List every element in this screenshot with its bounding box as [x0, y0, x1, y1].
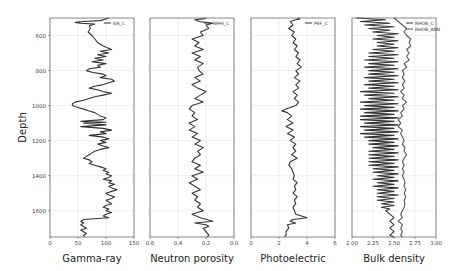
- y-tick-label: 1200: [32, 138, 46, 144]
- track-frame: [150, 18, 234, 237]
- legend-label: GR_C: [113, 21, 125, 27]
- x-tick-label: 0.6: [146, 240, 155, 246]
- x-tick-label: 50: [75, 240, 82, 246]
- x-tick-label: 0.2: [202, 240, 211, 246]
- y-tick-label: 600: [36, 33, 47, 39]
- x-tick-label: 150: [129, 240, 140, 246]
- x-tick-label: 0.0: [230, 240, 239, 246]
- x-axis-label: Neutron porosity: [150, 253, 234, 264]
- x-tick-label: 2.00: [346, 240, 359, 246]
- track-neutron-porosity: 0.60.40.20.0Neutron porosityNPHI_C: [146, 18, 239, 264]
- curve-rhob_c: [356, 18, 398, 237]
- x-tick-label: 0.4: [174, 240, 183, 246]
- x-tick-label: 3.00: [430, 240, 443, 246]
- y-tick-label: 1600: [32, 208, 46, 214]
- curve-pef_c: [282, 18, 307, 237]
- track-gamma-ray: 0501001506008001000120014001600Gamma-ray…: [32, 18, 140, 264]
- well-log-chart: Depth0501001506008001000120014001600Gamm…: [0, 0, 459, 271]
- y-axis-label: Depth: [17, 112, 28, 142]
- track-frame: [251, 18, 335, 237]
- x-axis-label: Photoelectric: [260, 253, 325, 264]
- y-tick-label: 800: [36, 68, 47, 74]
- x-tick-label: 6: [333, 240, 337, 246]
- x-tick-label: 2.75: [409, 240, 422, 246]
- x-axis-label: Gamma-ray: [62, 253, 121, 264]
- y-tick-label: 1400: [32, 173, 46, 179]
- track-bulk-density: 2.002.252.502.753.00Bulk densityRHOB_CRH…: [346, 18, 443, 264]
- legend-label: PEF_C: [314, 21, 328, 27]
- legend-label: NPHI_C: [213, 21, 229, 27]
- x-tick-label: 2: [277, 240, 281, 246]
- y-tick-label: 1000: [32, 103, 46, 109]
- x-tick-label: 4: [305, 240, 309, 246]
- curve-rhob_ann: [394, 18, 411, 237]
- x-tick-label: 2.50: [388, 240, 401, 246]
- curve-gr_c: [72, 18, 117, 237]
- x-axis-label: Bulk density: [363, 253, 425, 264]
- curve-nphi_c: [189, 18, 213, 237]
- legend-label: RHOB_ANN: [415, 27, 440, 33]
- x-tick-label: 0: [249, 240, 253, 246]
- x-tick-label: 100: [101, 240, 112, 246]
- x-tick-label: 0: [48, 240, 52, 246]
- track-photoelectric: 0246PhotoelectricPEF_C: [249, 18, 337, 264]
- x-tick-label: 2.25: [367, 240, 380, 246]
